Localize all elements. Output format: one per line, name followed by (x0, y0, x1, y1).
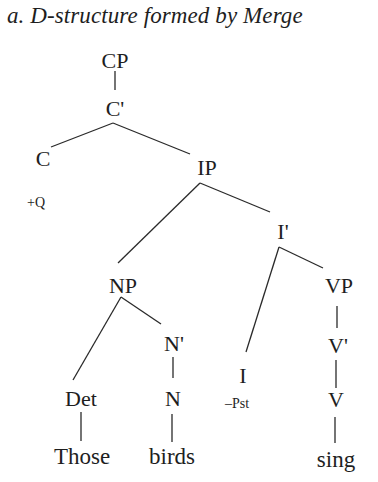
node-cp: CP (102, 48, 129, 73)
edge-ibar-vp (279, 247, 323, 268)
edge-ip-np (118, 183, 200, 263)
node-n: N (165, 386, 181, 411)
node-i: I (239, 363, 246, 388)
edge-cbar-c (51, 123, 113, 147)
node-ibar: I' (277, 219, 288, 244)
edge-ibar-i (246, 247, 279, 352)
node-v: V (328, 387, 344, 412)
node-np: NP (109, 273, 137, 298)
edge-cbar-ip (113, 123, 190, 154)
node-vbar: V' (328, 333, 348, 358)
node-vp: VP (325, 273, 353, 298)
node-ip: IP (197, 155, 217, 180)
node-c: C (36, 146, 51, 171)
feature-plus-q: +Q (27, 195, 45, 210)
syntax-tree: CP C' C +Q IP I' NP VP N' V' I –Pst Det … (0, 0, 378, 482)
feature-minus-pst: –Pst (224, 396, 249, 411)
node-nbar: N' (164, 331, 184, 356)
word-sing: sing (317, 447, 356, 472)
edge-np-nbar (121, 297, 161, 324)
edge-np-det (73, 297, 121, 380)
word-birds: birds (149, 444, 195, 469)
word-those: Those (54, 444, 110, 469)
node-det: Det (65, 386, 97, 411)
edge-ip-ibar (200, 183, 270, 212)
node-cbar: C' (106, 96, 125, 121)
